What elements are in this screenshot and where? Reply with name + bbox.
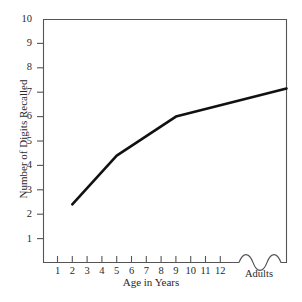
y-tick-label-1: 1 bbox=[12, 234, 32, 245]
chart-canvas bbox=[0, 0, 302, 302]
y-axis-ticks bbox=[37, 43, 43, 238]
x-tick-label-12: 12 bbox=[212, 266, 228, 277]
x-axis-ticks bbox=[58, 256, 221, 263]
x-tick-label-9: 9 bbox=[168, 266, 184, 277]
y-tick-label-9: 9 bbox=[12, 38, 32, 49]
y-axis-title: Number of Digits Recalled bbox=[17, 59, 29, 219]
x-tick-label-10: 10 bbox=[183, 266, 199, 277]
x-tick-label-4: 4 bbox=[94, 266, 110, 277]
x-tick-label-7: 7 bbox=[138, 266, 154, 277]
x-tick-label-8: 8 bbox=[153, 266, 169, 277]
x-tick-label-3: 3 bbox=[79, 266, 95, 277]
x-tick-label-11: 11 bbox=[198, 266, 214, 277]
x-tick-label-5: 5 bbox=[109, 266, 125, 277]
x-tick-label-1: 1 bbox=[50, 266, 66, 277]
axis-lines bbox=[43, 19, 287, 270]
x-tick-label-6: 6 bbox=[124, 266, 140, 277]
data-series-line bbox=[72, 89, 286, 205]
digit-span-line-chart: 10 9 8 7 6 5 4 3 2 1 1 2 3 4 5 6 7 8 9 1… bbox=[0, 0, 302, 302]
y-tick-label-10: 10 bbox=[12, 14, 32, 25]
x-axis-title: Age in Years bbox=[0, 276, 302, 288]
x-tick-label-2: 2 bbox=[64, 266, 80, 277]
